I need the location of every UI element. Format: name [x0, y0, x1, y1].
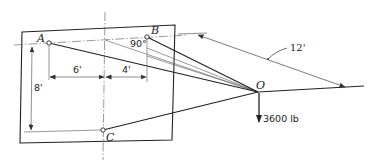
tripod-diagram: 12' 6' 4' 8' A B C O 90° 3600 lb: [0, 0, 382, 160]
member-CO: [103, 92, 258, 130]
angle-label: 90°: [130, 38, 147, 49]
member-BO: [147, 37, 258, 92]
dim-ext-C: [24, 130, 101, 132]
dimension-4ft-label: 4': [122, 64, 131, 75]
label-O: O: [256, 79, 265, 92]
label-C: C: [106, 131, 115, 144]
joint-C: [101, 128, 105, 132]
label-B: B: [150, 24, 159, 37]
load-label: 3600 lb: [263, 113, 299, 124]
vertical-centerline: [103, 12, 105, 160]
dimension-12ft-leader: [268, 48, 287, 59]
extension-line-O: [258, 86, 364, 92]
dimension-8ft: [31, 47, 32, 130]
label-A: A: [36, 32, 45, 45]
dimension-6ft-label: 6': [73, 64, 82, 75]
dimension-8ft-label: 8': [34, 82, 43, 93]
dimension-12ft-extension: [178, 33, 207, 34]
projection-line-3: [147, 56, 258, 92]
dimension-12ft-label: 12': [290, 42, 305, 53]
joint-A: [47, 41, 51, 45]
